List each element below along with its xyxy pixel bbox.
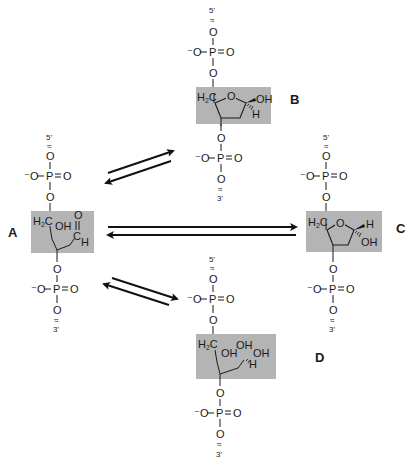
atom-p: P xyxy=(329,283,336,295)
group-h: H xyxy=(366,218,374,230)
five-prime-label: 5' xyxy=(209,6,215,15)
group-c: C xyxy=(73,230,81,242)
atom-o: O xyxy=(209,26,218,38)
structure-b: 5' ≈ O ⁻O P O O H2C O OH H B xyxy=(187,6,299,203)
three-prime-label: 3' xyxy=(329,325,335,334)
ring-o: O xyxy=(227,90,236,102)
atom-o: O xyxy=(216,387,225,399)
atom-o: O xyxy=(53,304,62,316)
atom-o-minus: ⁻O xyxy=(187,46,202,58)
atom-o: O xyxy=(216,428,225,440)
atom-o-minus: ⁻O xyxy=(31,283,46,295)
group-h: H xyxy=(249,358,257,370)
group-oh-2: OH xyxy=(236,339,253,351)
group-h: H xyxy=(252,108,260,120)
atom-p: P xyxy=(209,293,216,305)
five-prime-label: 5' xyxy=(209,255,215,264)
atom-p: P xyxy=(216,407,223,419)
three-prime-label: 3' xyxy=(217,194,223,203)
group-oh: OH xyxy=(256,93,273,105)
chain-break-icon: ≈ xyxy=(54,316,59,325)
group-oh: OH xyxy=(361,236,378,248)
structure-label-a: A xyxy=(8,225,18,240)
atom-o-double: O xyxy=(226,46,235,58)
atom-o-minus: ⁻O xyxy=(194,407,209,419)
equilibrium-a-d xyxy=(104,278,177,305)
forward-arrow-icon xyxy=(108,151,173,173)
atom-o-double: O xyxy=(346,283,355,295)
three-prime-label: 3' xyxy=(53,325,59,334)
chain-break-icon: ≈ xyxy=(210,264,215,273)
chain-break-icon: ≈ xyxy=(330,316,335,325)
atom-o: O xyxy=(53,263,62,275)
five-prime-label: 5' xyxy=(323,133,329,142)
structure-a: 5' ≈ O ⁻O P O O H2C OH O C H A O ⁻O P O … xyxy=(8,133,94,334)
structure-label-b: B xyxy=(290,92,299,107)
equilibrium-a-c xyxy=(108,227,296,235)
three-prime-label: 3' xyxy=(216,450,222,459)
atom-p: P xyxy=(217,152,224,164)
atom-o: O xyxy=(46,150,55,162)
atom-o: O xyxy=(322,191,331,203)
atom-o: O xyxy=(209,273,218,285)
atom-o: O xyxy=(209,314,218,326)
diagram-canvas: 5' ≈ O ⁻O P O O H2C O OH H B xyxy=(0,0,410,463)
atom-o-double: O xyxy=(234,152,243,164)
structure-d: 5' ≈ O ⁻O P O O H2C OH OH OH H D O ⁻O P … xyxy=(187,255,324,459)
atom-o-minus: ⁻O xyxy=(307,283,322,295)
reverse-arrow-icon xyxy=(104,284,169,305)
structure-label-d: D xyxy=(315,350,324,365)
group-o-carbonyl: O xyxy=(74,209,83,221)
atom-o: O xyxy=(46,191,55,203)
atom-o-minus: ⁻O xyxy=(195,152,210,164)
atom-o: O xyxy=(217,173,226,185)
five-prime-label: 5' xyxy=(46,133,52,142)
reverse-arrow-icon xyxy=(106,161,171,183)
chain-break-icon: ≈ xyxy=(210,16,215,25)
group-oh: OH xyxy=(55,220,72,232)
atom-p: P xyxy=(46,170,53,182)
atom-p: P xyxy=(322,170,329,182)
atom-o: O xyxy=(217,132,226,144)
atom-o-minus: ⁻O xyxy=(187,293,202,305)
forward-arrow-icon xyxy=(112,278,177,299)
atom-o-double: O xyxy=(63,170,72,182)
atom-o: O xyxy=(209,67,218,79)
atom-o-double: O xyxy=(233,407,242,419)
atom-o: O xyxy=(322,150,331,162)
atom-o-double: O xyxy=(226,293,235,305)
atom-p: P xyxy=(53,283,60,295)
chain-break-icon: ≈ xyxy=(217,440,222,449)
structure-label-c: C xyxy=(396,221,406,236)
ring-o: O xyxy=(336,217,345,229)
structure-c: 5' ≈ O ⁻O P O O H2C O H OH C O ⁻O P xyxy=(300,133,406,334)
chain-break-icon: ≈ xyxy=(218,185,223,194)
atom-o-minus: ⁻O xyxy=(24,170,39,182)
group-h: H xyxy=(81,236,89,248)
atom-p: P xyxy=(209,46,216,58)
atom-o-double: O xyxy=(70,283,79,295)
atom-o: O xyxy=(329,304,338,316)
atom-o-minus: ⁻O xyxy=(300,170,315,182)
equilibrium-a-b xyxy=(106,151,173,183)
atom-o: O xyxy=(329,263,338,275)
atom-o-double: O xyxy=(339,170,348,182)
